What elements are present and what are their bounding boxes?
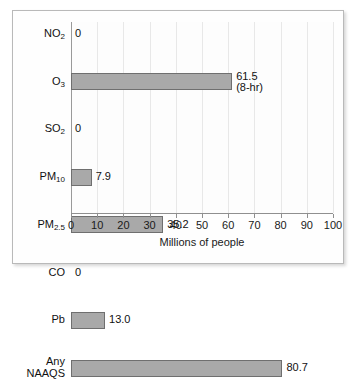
x-axis-tick-label: 30 [143, 219, 155, 231]
category-label: AnyNAAQS [0, 356, 71, 379]
bar-row: SO20 [71, 70, 333, 94]
x-axis-tick [333, 214, 334, 218]
bar-row: Pb13.0 [71, 165, 333, 189]
gridline [333, 22, 334, 213]
bar [71, 360, 282, 377]
x-axis-tick [281, 214, 282, 218]
bar-row: PM2.535.2 [71, 118, 333, 142]
x-axis-tick-label: 50 [196, 219, 208, 231]
x-axis-tick [97, 214, 98, 218]
x-axis-tick-label: 70 [248, 219, 260, 231]
x-axis-tick [71, 214, 72, 218]
bar-row: NO20 [71, 22, 333, 46]
x-axis-tick [123, 214, 124, 218]
x-axis-tick [228, 214, 229, 218]
x-axis-label: Millions of people [71, 236, 333, 249]
x-axis-tick [176, 214, 177, 218]
chart-card: NO20O361.5(8-hr)SO20PM107.9PM2.535.2CO0P… [12, 10, 344, 264]
x-axis-tick-label: 100 [324, 219, 342, 231]
plot-area: NO20O361.5(8-hr)SO20PM107.9PM2.535.2CO0P… [71, 22, 333, 213]
x-axis-tick-label: 0 [68, 219, 74, 231]
category-label: CO [0, 267, 71, 279]
x-axis-tick [307, 214, 308, 218]
x-axis-tick-label: 60 [222, 219, 234, 231]
x-axis-tick-label: 40 [170, 219, 182, 231]
x-axis-tick-label: 20 [117, 219, 129, 231]
bar-value-label: 0 [75, 28, 81, 40]
x-axis-tick [202, 214, 203, 218]
category-label: SO2 [0, 123, 71, 136]
bar-row: CO0 [71, 141, 333, 165]
x-axis-tick-label: 10 [91, 219, 103, 231]
bar-value-label: 13.0 [109, 314, 130, 326]
category-label: NO2 [0, 28, 71, 41]
category-label: Pb [0, 314, 71, 326]
bar-row: PM107.9 [71, 94, 333, 118]
x-axis-tick [150, 214, 151, 218]
bar-value-label: 0 [75, 267, 81, 279]
x-axis-tick [254, 214, 255, 218]
category-label: PM10 [0, 171, 71, 184]
category-label: O3 [0, 76, 71, 89]
bar-value-label: 80.7 [286, 362, 307, 374]
bar-row: AnyNAAQS80.7 [71, 189, 333, 213]
x-axis-tick-label: 80 [274, 219, 286, 231]
x-axis-tick-label: 90 [301, 219, 313, 231]
category-label: PM2.5 [0, 219, 71, 232]
bar-rows: NO20O361.5(8-hr)SO20PM107.9PM2.535.2CO0P… [71, 22, 333, 213]
bar [71, 312, 105, 329]
bar-row: O361.5(8-hr) [71, 46, 333, 70]
